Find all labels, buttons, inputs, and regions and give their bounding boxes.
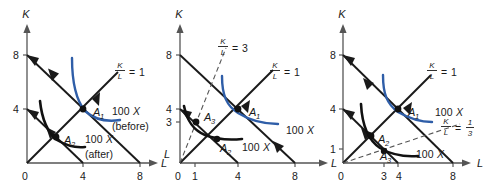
y-tick-8: 8 (330, 49, 336, 61)
x-tick-4: 4 (80, 170, 86, 182)
x-tick-8: 8 (292, 170, 298, 182)
isoquant-100x-after (40, 101, 85, 147)
point-a3-marker (193, 119, 200, 126)
svg-text:=: = (232, 42, 238, 54)
point-a1-marker (395, 106, 402, 113)
point-a2-label: A 2 (219, 142, 232, 157)
svg-text:1: 1 (451, 66, 457, 78)
svg-text:(after): (after) (85, 148, 113, 160)
isoquant-label-before: 100 X (before) (112, 105, 149, 132)
x-tick-0: 0 (338, 170, 344, 182)
svg-text:100: 100 (242, 141, 260, 153)
svg-text:=: = (441, 66, 447, 78)
point-a2-marker (368, 133, 375, 140)
ray-label-kl-one-third: K L = 1 3 (441, 117, 474, 138)
x-tick-0: 0 (22, 170, 28, 182)
svg-text:1: 1 (468, 118, 472, 127)
svg-text:L: L (118, 72, 122, 81)
point-a3-label: A 3 (203, 111, 216, 126)
svg-text:L: L (221, 48, 225, 57)
k-axis-label: K (22, 8, 30, 20)
y-tick-3: 3 (166, 116, 172, 128)
x-tick-8: 8 (137, 170, 143, 182)
isoquant-label-blue: 100 X (286, 124, 315, 136)
svg-text:1: 1 (415, 112, 419, 121)
y-tick-4: 4 (13, 103, 19, 115)
point-a1-marker (80, 106, 87, 113)
ray-label-kl-1: K L = 1 (115, 61, 145, 81)
point-a1-marker (235, 106, 242, 113)
svg-text:X: X (455, 106, 464, 118)
figure-container: K L 8 4 0 4 8 (0, 0, 497, 190)
y-tick-8: 8 (166, 49, 172, 61)
svg-text:K: K (220, 37, 226, 46)
svg-text:3: 3 (468, 129, 473, 138)
svg-text:L: L (444, 128, 448, 137)
svg-text:X: X (306, 124, 315, 136)
panel-1-plot: K L 8 4 0 4 8 (0, 0, 170, 190)
l-axis-label: L (477, 157, 483, 169)
svg-text:(before): (before) (112, 120, 149, 132)
y-tick-8: 8 (13, 49, 19, 61)
x-tick-4: 4 (396, 170, 402, 182)
point-a2-marker (53, 134, 60, 141)
svg-text:L: L (273, 72, 277, 81)
ray-label-kl-3: K L = 3 (218, 37, 248, 57)
svg-text:2: 2 (226, 148, 232, 157)
svg-text:K: K (429, 61, 435, 70)
y-tick-1: 1 (330, 143, 336, 155)
panel-3-plot: K L 8 4 1 0 3 4 8 (330, 0, 497, 190)
isoquant-label-after: 100 X (after) (85, 133, 114, 160)
svg-text:100: 100 (286, 124, 304, 136)
svg-text:100: 100 (85, 133, 103, 145)
svg-text:=: = (129, 66, 135, 78)
isoquant-label-blue: 100 X (435, 106, 464, 118)
svg-text:X: X (105, 133, 114, 145)
isoquant-label-black: 100 X (416, 148, 445, 160)
y-tick-4: 4 (166, 103, 172, 115)
svg-text:1: 1 (294, 66, 300, 78)
k-axis-label: K (175, 8, 183, 20)
x-tick-3: 3 (381, 170, 387, 182)
svg-text:2: 2 (70, 140, 76, 149)
svg-text:2: 2 (384, 139, 390, 148)
svg-text:X: X (262, 141, 271, 153)
panel-2: K L L 8 4 3 0 1 4 8 (160, 0, 340, 190)
x-tick-0: 0 (175, 170, 181, 182)
x-tick-1: 1 (192, 170, 198, 182)
k-axis (23, 24, 30, 163)
svg-text:K: K (117, 61, 123, 70)
panel-2-plot: K L L 8 4 3 0 1 4 8 (160, 0, 340, 190)
svg-text:=: = (284, 66, 290, 78)
svg-text:100: 100 (416, 148, 434, 160)
svg-text:100: 100 (112, 105, 130, 117)
svg-text:1: 1 (256, 112, 260, 121)
panel-1: K L 8 4 0 4 8 (0, 0, 170, 190)
y-tick-4: 4 (330, 103, 336, 115)
k-axis-label: K (338, 8, 346, 20)
x-tick-4: 4 (235, 170, 241, 182)
l-axis-label-left: L (164, 148, 170, 160)
k-axis (176, 24, 183, 163)
k-axis (339, 24, 346, 163)
svg-text:K: K (272, 61, 278, 70)
svg-text:L: L (430, 72, 434, 81)
panel-3: K L 8 4 1 0 3 4 8 (330, 0, 497, 190)
svg-text:100: 100 (435, 106, 453, 118)
svg-text:3: 3 (242, 42, 248, 54)
isoquant-label-black: 100 X (242, 141, 271, 153)
x-tick-8: 8 (450, 170, 456, 182)
ray-label-kl-1: K L = 1 (270, 61, 300, 81)
svg-text:X: X (132, 105, 141, 117)
svg-text:1: 1 (139, 66, 145, 78)
ray-label-kl-1: K L = 1 (427, 61, 457, 81)
l-axis (180, 159, 328, 166)
svg-text:1: 1 (100, 112, 104, 121)
svg-text:X: X (436, 148, 445, 160)
svg-text:K: K (443, 117, 449, 126)
svg-text:3: 3 (211, 117, 216, 126)
svg-text:=: = (455, 122, 461, 134)
